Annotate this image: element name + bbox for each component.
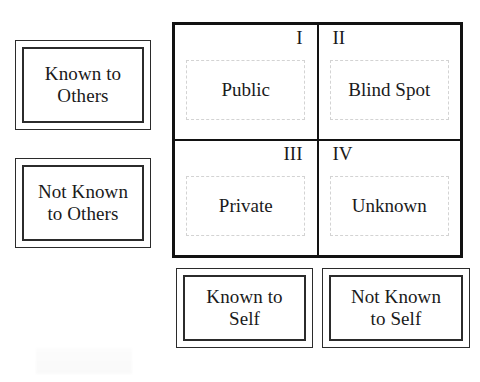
johari-window-diagram: Known to Others Not Known to Others I Pu… (0, 0, 480, 382)
quadrant-unknown-numeral: IV (333, 144, 353, 163)
column-label-not-known-to-self-text: Not Known to Self (347, 286, 445, 330)
row-label-not-known-to-others: Not Known to Others (15, 158, 151, 248)
row-label-known-to-others-text: Known to Others (41, 63, 125, 107)
quadrant-private-box: Private (186, 176, 305, 235)
quadrant-private-label: Private (219, 195, 273, 217)
column-label-known-to-self: Known to Self (176, 268, 313, 348)
quadrant-private-numeral: III (284, 144, 303, 163)
quadrant-unknown: IV Unknown (318, 140, 461, 255)
scan-artifact (36, 348, 132, 374)
quadrant-blind-spot-label: Blind Spot (348, 79, 430, 101)
quadrant-public-numeral: I (296, 28, 302, 47)
quadrant-blind-spot: II Blind Spot (318, 25, 461, 140)
column-label-known-to-self-text: Known to Self (202, 286, 286, 330)
column-label-not-known-to-self-inner: Not Known to Self (329, 275, 463, 341)
quadrant-grid: I Public II Blind Spot III Private IV Un… (172, 22, 463, 258)
quadrant-public: I Public (175, 25, 318, 140)
quadrant-unknown-label: Unknown (352, 195, 427, 217)
row-label-not-known-to-others-inner: Not Known to Others (22, 165, 144, 241)
row-label-not-known-to-others-text: Not Known to Others (34, 181, 132, 225)
row-label-known-to-others: Known to Others (15, 40, 151, 130)
column-label-not-known-to-self: Not Known to Self (322, 268, 470, 348)
column-label-known-to-self-inner: Known to Self (183, 275, 306, 341)
row-label-known-to-others-inner: Known to Others (22, 47, 144, 123)
quadrant-blind-spot-numeral: II (333, 28, 346, 47)
quadrant-blind-spot-box: Blind Spot (330, 60, 449, 119)
quadrant-private: III Private (175, 140, 318, 255)
quadrant-public-box: Public (186, 60, 305, 119)
quadrant-public-label: Public (221, 79, 270, 101)
quadrant-unknown-box: Unknown (330, 176, 449, 235)
